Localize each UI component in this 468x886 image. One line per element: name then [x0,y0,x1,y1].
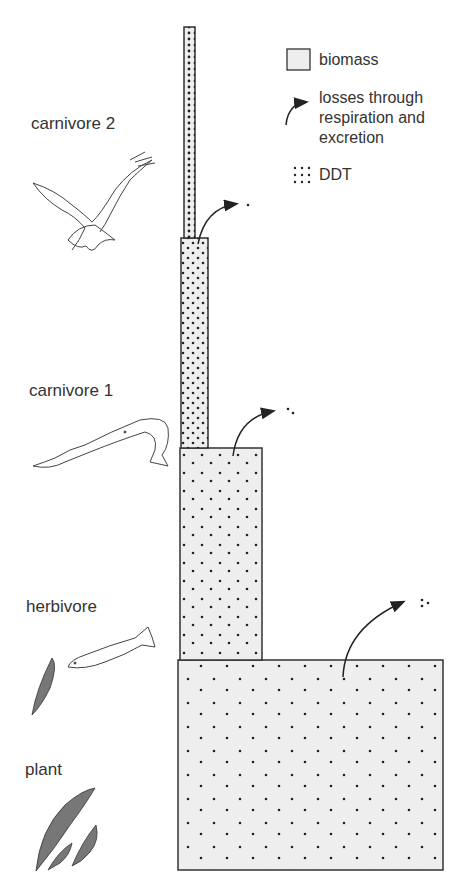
level-label-carnivore-1: carnivore 1 [29,381,113,401]
legend-biomass-label: biomass [319,50,379,70]
level-label-carnivore-2: carnivore 2 [31,114,115,134]
level-label-plant: plant [25,760,62,780]
legend-ddt-label: DDT [319,165,352,185]
ddt-legend-dots-icon [294,167,310,183]
losses-legend-arrow-icon [286,102,306,125]
level-label-herbivore: herbivore [26,597,97,617]
ddt-loss-dots [247,204,430,608]
legend-losses-line-1: losses through [319,88,423,108]
eagle-icon [33,152,155,250]
biomass-legend-swatch [287,49,310,70]
carnivore-2-bar [184,27,195,238]
pike-fish-icon [33,419,168,468]
legend-losses-line-3: excretion [319,128,384,148]
herbivore-bar [180,448,262,660]
small-fish-icon [68,627,155,668]
plant-bar [178,660,443,870]
carnivore-1-bar [181,238,208,448]
legend-losses-line-2: respiration and [319,108,425,128]
